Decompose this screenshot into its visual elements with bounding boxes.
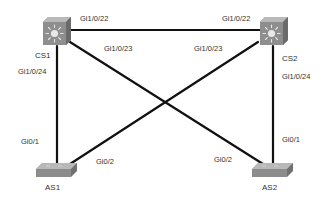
port-label-as1-gi0-2: Gi0/2 [96,157,114,166]
port-label-cs1-gi1-0-24: Gi1/0/24 [18,67,46,76]
cs2-switch-icon[interactable] [260,17,288,45]
port-label-cs2-gi1-0-22: Gi1/0/22 [222,14,250,23]
device-label-as1: AS1 [45,183,60,192]
port-label-as2-gi0-2: Gi0/2 [214,155,232,164]
links [57,30,273,165]
topology-canvas [0,0,331,207]
as1-switch-icon[interactable] [36,163,77,177]
port-label-cs2-gi1-0-23: Gi1/0/23 [194,44,222,53]
cs1-switch-icon[interactable] [43,17,71,45]
port-label-as1-gi0-1: Gi0/1 [21,137,39,146]
port-label-cs1-gi1-0-22: Gi1/0/22 [80,14,108,23]
device-label-cs1: CS1 [35,51,51,60]
device-label-as2: AS2 [262,183,277,192]
as2-switch-icon[interactable] [252,163,293,177]
device-label-cs2: CS2 [282,54,298,63]
port-label-cs2-gi1-0-24: Gi1/0/24 [282,72,310,81]
port-label-as2-gi0-1: Gi0/1 [282,135,300,144]
port-label-cs1-gi1-0-23: Gi1/0/23 [104,44,132,53]
